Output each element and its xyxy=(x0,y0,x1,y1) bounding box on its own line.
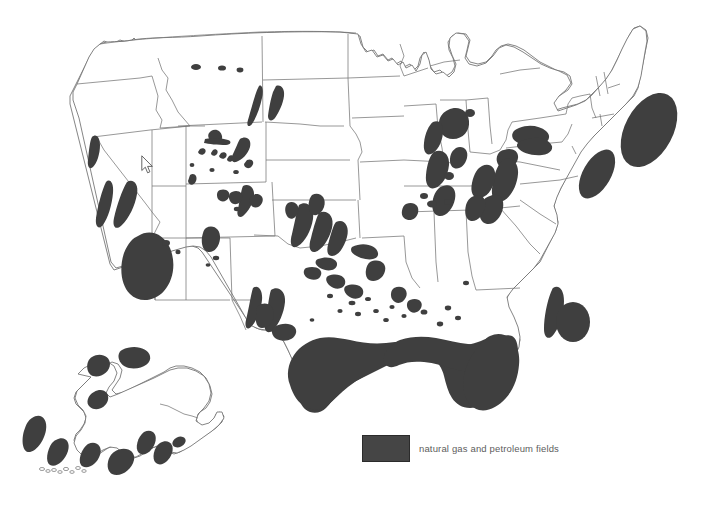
field-mississippi-a xyxy=(445,306,451,311)
field-blake-plateau-offshore xyxy=(556,302,590,342)
field-texas-small-f xyxy=(373,309,379,313)
field-michigan-thumb xyxy=(465,109,475,117)
field-nm-small-b xyxy=(206,263,211,267)
field-texas-small-b xyxy=(349,301,356,305)
field-texas-small-h xyxy=(383,318,389,322)
map-legend: natural gas and petroleum fields xyxy=(362,435,559,462)
field-california-small-b xyxy=(175,250,180,254)
field-california-small-a xyxy=(162,240,170,246)
field-wyoming-f xyxy=(190,163,195,167)
field-texas-small-j xyxy=(310,318,315,322)
field-texas-small-i xyxy=(401,314,406,318)
aleutian-islands xyxy=(39,467,86,474)
field-alabama-b xyxy=(463,281,469,285)
field-louisiana-north xyxy=(421,309,428,314)
field-alabama-a xyxy=(437,322,443,327)
legend-label-petroleum-fields: natural gas and petroleum fields xyxy=(419,443,559,454)
field-alaska-peninsula xyxy=(108,449,135,475)
field-kentucky-b xyxy=(444,199,452,205)
field-montana-b xyxy=(218,65,226,70)
field-texas-small-d xyxy=(337,309,342,313)
field-illinois-small xyxy=(420,193,428,199)
legend-swatch-petroleum-fields xyxy=(362,435,410,462)
map-page: .outline { fill:#ffffff; stroke:#6f6f6f;… xyxy=(0,0,702,505)
field-colorado-c xyxy=(234,207,240,211)
field-texas-small-g xyxy=(389,305,394,309)
field-montana-a xyxy=(191,64,201,70)
field-wyoming-h xyxy=(233,170,239,174)
field-alaska-bering-a xyxy=(23,416,47,452)
field-texas-small-c xyxy=(365,297,371,301)
field-kentucky-a xyxy=(427,201,437,208)
field-indiana-b xyxy=(444,172,454,180)
field-alaska-north-slope-east xyxy=(118,347,150,368)
field-nm-small-a xyxy=(213,256,219,260)
field-alaska-bering-b xyxy=(47,438,69,465)
field-texas-small-e xyxy=(355,312,361,316)
field-montana-c xyxy=(237,68,244,73)
us-petroleum-fields-map: .outline { fill:#ffffff; stroke:#6f6f6f;… xyxy=(0,0,702,505)
field-wyoming-g xyxy=(209,168,214,172)
field-texas-small-a xyxy=(327,294,333,298)
field-mississippi-b xyxy=(455,316,461,320)
